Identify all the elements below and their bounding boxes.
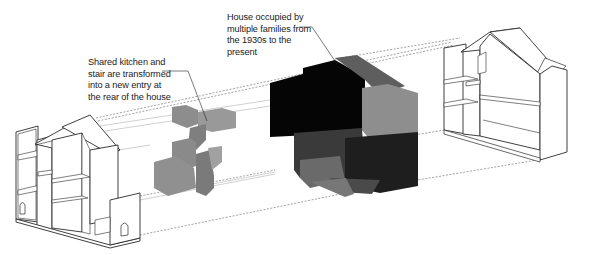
annotation-rear-entry: Shared kitchen and stair are transformed… [88,57,198,103]
stair-kitchen-mass [154,105,236,196]
annotation-occupied-house: House occupied by multiple families from… [227,12,337,58]
left-house-model [16,115,140,248]
right-house-model [444,28,567,162]
